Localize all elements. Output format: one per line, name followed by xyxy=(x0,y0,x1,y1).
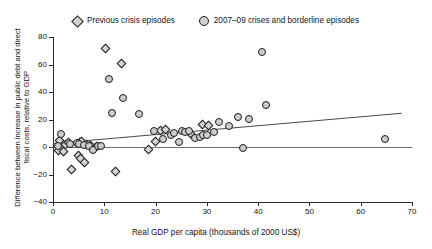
x-axis-line xyxy=(53,202,413,203)
diamond-marker-icon xyxy=(71,15,84,28)
x-tick xyxy=(156,202,157,206)
x-tick-label-20: 20 xyxy=(151,208,160,216)
data-point-circle xyxy=(215,118,223,126)
y-tick-label-60: 60 xyxy=(38,61,47,69)
data-point-circle xyxy=(108,109,116,117)
data-point-diamond xyxy=(67,165,77,175)
data-point-diamond xyxy=(100,44,110,54)
x-tick-label-70: 70 xyxy=(408,208,417,216)
data-point-circle xyxy=(119,94,127,102)
scatter-plot-figure: Previous crisis episodes 2007–09 crises … xyxy=(0,0,432,249)
data-point-diamond xyxy=(111,167,121,177)
x-tick-label-50: 50 xyxy=(305,208,314,216)
x-tick xyxy=(53,202,54,206)
x-tick-label-60: 60 xyxy=(356,208,365,216)
y-tick xyxy=(49,37,53,38)
circle-marker-icon xyxy=(199,16,209,26)
data-point-circle xyxy=(258,48,266,56)
x-tick xyxy=(309,202,310,206)
legend-item-previous-crisis: Previous crisis episodes xyxy=(73,16,175,26)
zero-line xyxy=(53,147,412,148)
data-point-circle xyxy=(234,113,242,121)
data-point-circle xyxy=(225,122,233,130)
x-tick-label-40: 40 xyxy=(254,208,263,216)
chart-legend: Previous crisis episodes 2007–09 crises … xyxy=(0,12,432,30)
data-point-circle xyxy=(105,75,113,83)
plot-area: −40−20020406080 010203040506070 xyxy=(53,37,412,202)
data-point-circle xyxy=(135,110,143,118)
x-tick xyxy=(104,202,105,206)
x-tick-label-0: 0 xyxy=(51,208,55,216)
legend-item-2007-09-crises: 2007–09 crises and borderline episodes xyxy=(199,16,359,26)
data-point-circle xyxy=(245,115,253,123)
data-point-diamond xyxy=(117,59,127,69)
y-tick xyxy=(49,175,53,176)
y-tick-label--20: −20 xyxy=(33,171,47,179)
y-tick-label--40: −40 xyxy=(33,198,47,206)
data-point-circle xyxy=(175,138,183,146)
y-axis-title: Difference between increase in public de… xyxy=(13,22,32,212)
x-tick xyxy=(207,202,208,206)
x-axis-title: Real GDP per capita (thousands of 2000 U… xyxy=(0,228,432,237)
data-point-circle xyxy=(57,130,65,138)
y-tick xyxy=(49,92,53,93)
data-point-circle xyxy=(239,144,247,152)
x-tick xyxy=(412,202,413,206)
data-point-circle xyxy=(170,129,178,137)
x-tick-label-30: 30 xyxy=(202,208,211,216)
legend-label-2007-09-crises: 2007–09 crises and borderline episodes xyxy=(214,16,359,26)
y-tick xyxy=(49,65,53,66)
y-tick xyxy=(49,120,53,121)
data-point-circle xyxy=(210,128,218,136)
data-point-circle xyxy=(159,135,167,143)
legend-label-previous-crisis: Previous crisis episodes xyxy=(87,16,175,26)
data-point-circle xyxy=(381,135,389,143)
y-tick-label-20: 20 xyxy=(38,116,47,124)
data-point-circle xyxy=(150,127,158,135)
data-point-circle xyxy=(262,101,270,109)
x-tick xyxy=(258,202,259,206)
data-point-circle xyxy=(97,142,105,150)
y-tick-label-0: 0 xyxy=(43,143,47,151)
y-tick-label-40: 40 xyxy=(38,88,47,96)
y-tick-label-80: 80 xyxy=(38,33,47,41)
x-tick-label-10: 10 xyxy=(100,208,109,216)
x-tick xyxy=(361,202,362,206)
